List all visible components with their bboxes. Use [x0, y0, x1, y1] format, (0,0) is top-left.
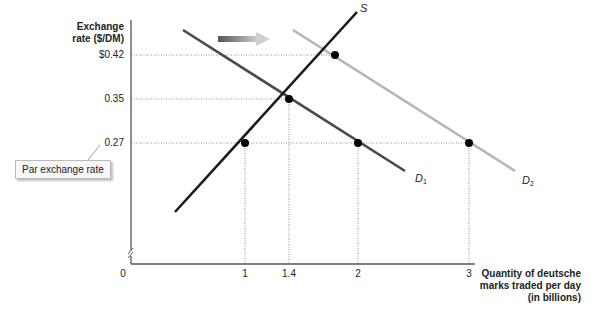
x-axis-title-line2: marks traded per day: [441, 280, 581, 292]
par-exchange-rate-callout: Par exchange rate: [15, 160, 111, 179]
x-tick-1-4: 1.4: [274, 268, 304, 279]
demand-shift-arrow-icon: [218, 32, 270, 46]
d2-curve-label: D2: [522, 174, 534, 187]
point-2-027: [354, 139, 362, 147]
demand-curve-d1: [183, 30, 405, 171]
x-axis-title-line1: Quantity of deutsche: [441, 268, 581, 280]
y-tick-035: 0.35: [64, 93, 124, 104]
exchange-rate-diagram: [0, 0, 597, 310]
supply-curve-label: S: [360, 2, 367, 14]
d1-curve-label: D1: [415, 172, 427, 185]
point-3-027: [465, 139, 473, 147]
axes: [131, 20, 475, 264]
point-18-042: [331, 51, 339, 59]
y-axis-title-line1: Exchange: [34, 21, 124, 33]
x-tick-0: 0: [108, 268, 138, 279]
demand-curve-d2: [293, 30, 515, 171]
point-1-027: [241, 139, 249, 147]
guide-lines: [131, 55, 469, 264]
x-tick-2: 2: [343, 268, 373, 279]
point-14-035: [285, 95, 293, 103]
y-axis-title-line2: rate ($/DM): [34, 33, 124, 45]
x-axis-title-line3: (in billions): [441, 292, 581, 304]
equilibrium-points: [241, 51, 473, 147]
y-tick-027: 0.27: [64, 137, 124, 148]
x-tick-1: 1: [230, 268, 260, 279]
y-tick-042: $0.42: [64, 49, 124, 60]
